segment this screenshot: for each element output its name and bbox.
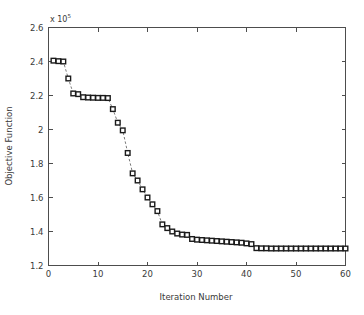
- data-point-marker: [66, 76, 71, 81]
- data-point-marker: [210, 238, 215, 243]
- data-point-marker: [51, 58, 56, 63]
- data-point-marker: [229, 240, 234, 245]
- y-tick-label: 2: [38, 125, 43, 135]
- data-point-marker: [120, 128, 125, 133]
- data-point-marker: [289, 246, 294, 251]
- data-point-marker: [200, 238, 205, 243]
- data-point-marker: [116, 120, 121, 125]
- data-point-marker: [284, 246, 289, 251]
- data-point-marker: [111, 107, 116, 112]
- data-point-marker: [338, 246, 343, 251]
- data-point-marker: [101, 96, 106, 101]
- x-tick-label: 30: [192, 269, 203, 279]
- x-tick-label: 10: [93, 269, 104, 279]
- data-point-marker: [81, 95, 86, 100]
- data-point-marker: [145, 195, 150, 200]
- data-point-marker: [130, 171, 135, 176]
- y-tick-label: 1.6: [30, 193, 44, 203]
- data-point-marker: [234, 240, 239, 245]
- data-point-marker: [175, 231, 180, 236]
- data-point-marker: [170, 229, 175, 234]
- data-point-marker: [279, 246, 284, 251]
- data-point-marker: [269, 246, 274, 251]
- data-point-marker: [239, 240, 244, 245]
- data-point-marker: [264, 246, 269, 251]
- data-point-marker: [195, 237, 200, 242]
- data-point-marker: [76, 92, 81, 97]
- data-point-marker: [205, 238, 210, 243]
- data-point-marker: [125, 151, 130, 156]
- data-point-marker: [155, 209, 160, 214]
- data-point-marker: [244, 241, 249, 246]
- data-point-marker: [294, 246, 299, 251]
- data-point-marker: [314, 246, 319, 251]
- data-point-marker: [140, 187, 145, 192]
- y-tick-label: 1.2: [30, 261, 44, 271]
- data-point-marker: [304, 246, 309, 251]
- data-point-marker: [106, 96, 111, 101]
- data-point-marker: [309, 246, 314, 251]
- data-point-marker: [96, 96, 101, 101]
- data-point-marker: [180, 232, 185, 237]
- data-point-marker: [318, 246, 323, 251]
- data-point-marker: [299, 246, 304, 251]
- series-line: [53, 61, 345, 249]
- data-point-marker: [61, 59, 66, 64]
- data-point-marker: [224, 239, 229, 244]
- data-point-marker: [150, 202, 155, 207]
- y-tick-label: 2.4: [30, 57, 44, 67]
- data-point-marker: [160, 222, 165, 227]
- data-point-marker: [333, 246, 338, 251]
- data-point-marker: [249, 242, 254, 247]
- y-tick-label: 2.6: [30, 23, 44, 33]
- data-point-marker: [71, 91, 76, 96]
- data-point-marker: [56, 59, 61, 64]
- y-tick-label: 1.4: [30, 227, 44, 237]
- y-tick-label: 1.8: [30, 159, 44, 169]
- data-point-marker: [165, 226, 170, 231]
- x-tick-label: 40: [241, 269, 252, 279]
- data-point-marker: [135, 178, 140, 183]
- x-axis-title: Iteration Number: [160, 292, 233, 302]
- figure-canvas: 1.21.41.61.822.22.42.6 0102030405060 x 1…: [0, 0, 364, 315]
- data-point-marker: [219, 239, 224, 244]
- data-point-marker: [215, 239, 220, 244]
- x-tick-label: 50: [291, 269, 302, 279]
- data-point-marker: [343, 246, 348, 251]
- y-axis-exponent-label: x 105: [50, 13, 71, 24]
- y-tick-label: 2.2: [30, 91, 44, 101]
- data-point-marker: [328, 246, 333, 251]
- x-tick-label: 20: [142, 269, 153, 279]
- data-point-marker: [323, 246, 328, 251]
- x-tick-label: 60: [340, 269, 351, 279]
- data-point-marker: [259, 246, 264, 251]
- axes-frame: [49, 28, 346, 266]
- data-point-marker: [254, 246, 259, 251]
- data-point-marker: [274, 246, 279, 251]
- x-tick-label: 0: [46, 269, 51, 279]
- data-point-marker: [190, 237, 195, 242]
- data-point-marker: [91, 95, 96, 100]
- data-point-marker: [86, 95, 91, 100]
- data-series-layer: [51, 58, 348, 250]
- y-axis-title: Objective Function: [4, 106, 14, 185]
- data-point-marker: [185, 233, 190, 238]
- convergence-plot: 1.21.41.61.822.22.42.6 0102030405060 x 1…: [0, 0, 364, 315]
